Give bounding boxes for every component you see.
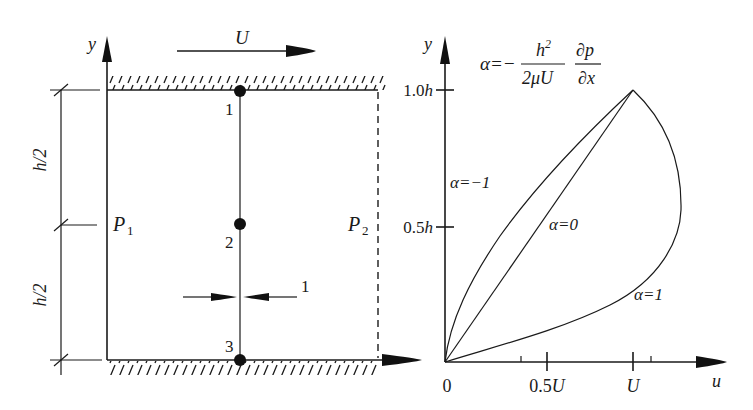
right-arrow-icon bbox=[286, 45, 316, 57]
chart-y-axis: y 1.0h 0.5h bbox=[403, 34, 454, 362]
formula-frac2-denominator: ∂x bbox=[578, 68, 595, 88]
top-wall bbox=[107, 76, 386, 90]
point-1-label: 1 bbox=[225, 100, 234, 119]
up-arrow-icon bbox=[440, 36, 450, 64]
right-arrow-icon bbox=[382, 354, 422, 366]
curve-alpha-0 bbox=[445, 90, 633, 362]
y-tick-half-h: 0.5h bbox=[403, 218, 433, 237]
outlet-pressure-subscript: 2 bbox=[362, 223, 369, 238]
point-3-marker bbox=[234, 354, 246, 366]
outlet-pressure-label: P bbox=[347, 213, 360, 235]
x-tick-u: U bbox=[627, 376, 641, 396]
chart-x-axis: 0 0.5U U u bbox=[443, 352, 728, 396]
channel-schematic: y U h/2 h bbox=[30, 27, 422, 375]
section-marker-label: 1 bbox=[301, 277, 310, 296]
dimension-lower-label: h/2 bbox=[30, 283, 50, 306]
inlet-pressure: P 1 bbox=[112, 213, 134, 238]
chart-x-axis-label: u bbox=[712, 371, 721, 391]
left-y-axis-label: y bbox=[86, 34, 96, 54]
outlet-pressure: P 2 bbox=[347, 213, 369, 238]
point-1-marker bbox=[234, 85, 246, 97]
plate-velocity-label: U bbox=[235, 27, 250, 48]
point-3-label: 3 bbox=[225, 337, 234, 356]
x-tick-origin: 0 bbox=[443, 376, 452, 396]
formula-frac1-denominator: 2μU bbox=[522, 68, 554, 88]
right-arrow-icon bbox=[211, 293, 237, 301]
dimension-upper-label: h/2 bbox=[30, 148, 50, 171]
curve-label-neg1: α=−1 bbox=[450, 173, 490, 192]
formula-frac2-numerator: ∂p bbox=[576, 40, 594, 60]
section-marker: 1 bbox=[183, 277, 310, 301]
chart-y-axis-label: y bbox=[422, 34, 432, 54]
curve-label-1: α=1 bbox=[634, 285, 663, 304]
right-arrow-icon bbox=[696, 356, 727, 368]
bottom-wall bbox=[107, 354, 422, 375]
point-2-marker bbox=[234, 218, 246, 230]
left-arrow-icon bbox=[243, 293, 269, 301]
inlet-pressure-subscript: 1 bbox=[127, 223, 134, 238]
curve-label-0: α=0 bbox=[549, 215, 578, 234]
formula-lhs: α=− bbox=[480, 53, 516, 74]
inlet-pressure-label: P bbox=[112, 213, 125, 235]
point-2-label: 2 bbox=[225, 233, 234, 252]
centerline: 1 2 3 bbox=[225, 85, 246, 366]
formula-frac1-numerator: h2 bbox=[536, 37, 551, 60]
x-tick-half-u: 0.5U bbox=[529, 376, 566, 396]
velocity-profile-chart: y 1.0h 0.5h 0 0.5U U u α bbox=[403, 34, 727, 396]
alpha-definition-formula: α=− h2 2μU ∂p ∂x bbox=[480, 37, 601, 88]
dimension-lines: h/2 h/2 bbox=[30, 84, 102, 375]
plate-velocity-arrow: U bbox=[177, 27, 316, 57]
y-tick-1h: 1.0h bbox=[403, 81, 433, 100]
couette-poiseuille-figure: y U h/2 h bbox=[0, 0, 753, 410]
up-arrow-icon bbox=[102, 36, 112, 62]
